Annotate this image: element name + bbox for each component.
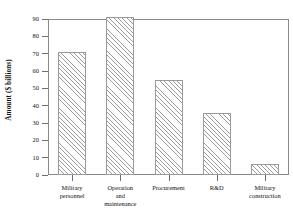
bars-group	[48, 19, 289, 175]
y-axis-title: Amount ($ billions)	[2, 0, 16, 180]
x-axis-tick-label: Military construction	[241, 184, 289, 200]
y-axis-title-text: Amount ($ billions)	[5, 59, 13, 120]
y-axis-tick-label: 10	[33, 153, 39, 162]
x-axis-tick-mark	[169, 175, 170, 181]
y-axis-tick-label: 20	[33, 135, 39, 144]
y-axis-tick-label: 30	[33, 118, 39, 127]
bar	[58, 52, 86, 175]
x-axis-tick-label: Procurement	[144, 184, 192, 192]
y-axis-tick-label: 60	[33, 66, 39, 75]
bar	[251, 164, 279, 175]
x-axis-tick-mark	[217, 175, 218, 181]
y-axis-tick-label: 0	[36, 170, 39, 179]
y-axis-tick-label: 40	[33, 101, 39, 110]
y-axis-tick-label: 80	[33, 31, 39, 40]
x-axis-tick-mark	[72, 175, 73, 181]
x-axis-tick-label: R&D	[193, 184, 241, 192]
y-axis-tick-label: 70	[33, 49, 39, 58]
bar	[203, 113, 231, 175]
bar	[155, 80, 183, 175]
x-axis: Military personnelOperation and maintena…	[48, 175, 289, 213]
y-axis-tick-label: 90	[33, 14, 39, 23]
x-axis-tick-label: Military personnel	[48, 184, 96, 200]
x-axis-tick-mark	[265, 175, 266, 181]
bar-chart: Amount ($ billions) 0102030405060708090 …	[0, 0, 293, 213]
x-axis-tick-mark	[120, 175, 121, 181]
x-axis-tick-label: Operation and maintenance	[96, 184, 144, 209]
bar	[106, 17, 134, 175]
y-axis-tick-label: 50	[33, 83, 39, 92]
